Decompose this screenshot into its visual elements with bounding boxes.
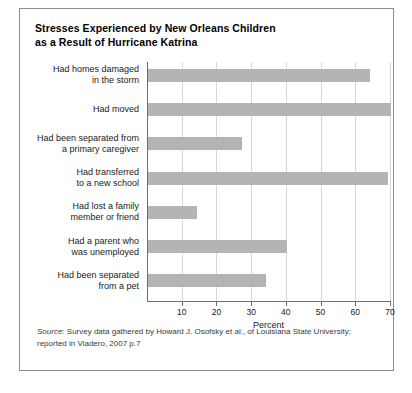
x-axis-tick-label: 40: [281, 307, 290, 317]
category-label: Had been separated froma primary caregiv…: [37, 133, 139, 155]
bar: [148, 274, 266, 287]
bar: [148, 240, 287, 253]
source-note: Source: Survey data gathered by Howard J…: [37, 326, 377, 350]
chart-title: Stresses Experienced by New Orleans Chil…: [35, 21, 375, 49]
category-label-line: was unemployed: [68, 247, 139, 258]
category-label-line: member or friend: [70, 212, 139, 223]
category-label: Had homes damagedin the storm: [53, 64, 139, 86]
x-axis-line: [147, 301, 391, 302]
bar: [148, 206, 197, 219]
source-text-line-2: reported in Viadero, 2007 p.7: [37, 339, 140, 348]
source-text-line-1: Survey data gathered by Howard J. Osofsk…: [65, 327, 351, 336]
category-label-line: Had transferred: [76, 167, 139, 178]
category-label-line: from a pet: [57, 281, 139, 292]
x-axis-tick-mark: [286, 302, 287, 306]
y-axis-line: [147, 62, 148, 302]
x-axis-tick-label: 50: [316, 307, 325, 317]
category-label: Had moved: [93, 104, 139, 115]
x-axis-tick-mark: [251, 302, 252, 306]
x-axis-tick-mark: [390, 302, 391, 306]
x-axis-tick-label: 10: [177, 307, 186, 317]
category-label-line: Had lost a family: [70, 201, 139, 212]
x-axis-tick-mark: [355, 302, 356, 306]
category-label: Had been separatedfrom a pet: [57, 270, 139, 292]
figure-container: Stresses Experienced by New Orleans Chil…: [19, 8, 394, 371]
category-label: Had lost a familymember or friend: [70, 201, 139, 223]
bar: [148, 172, 388, 185]
x-axis-tick-mark: [216, 302, 217, 306]
category-label-line: Had homes damaged: [53, 64, 139, 75]
bar: [148, 103, 391, 116]
category-label-line: to a new school: [76, 178, 139, 189]
x-axis-tick-mark: [321, 302, 322, 306]
category-label-line: Had a parent who: [68, 236, 139, 247]
x-axis-tick-mark: [182, 302, 183, 306]
category-label: Had transferredto a new school: [76, 167, 139, 189]
category-label-line: Had moved: [93, 104, 139, 115]
category-label-line: Had been separated from: [37, 133, 139, 144]
category-label-line: a primary caregiver: [37, 144, 139, 155]
source-label: Source:: [37, 327, 65, 336]
x-axis-tick-label: 60: [351, 307, 360, 317]
bar: [148, 69, 370, 82]
x-axis-tick-label: 30: [246, 307, 255, 317]
gridline: [390, 62, 391, 302]
x-axis-tick-label: 70: [385, 307, 394, 317]
category-label: Had a parent whowas unemployed: [68, 236, 139, 258]
chart-title-line-2: as a Result of Hurricane Katrina: [35, 35, 375, 49]
bar: [148, 137, 242, 150]
category-label-line: Had been separated: [57, 270, 139, 281]
chart-title-line-1: Stresses Experienced by New Orleans Chil…: [35, 21, 375, 35]
category-label-line: in the storm: [53, 75, 139, 86]
x-axis-tick-label: 20: [212, 307, 221, 317]
plot-area: 10203040506070 Had homes damagedin the s…: [147, 62, 390, 302]
